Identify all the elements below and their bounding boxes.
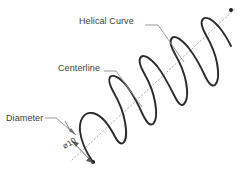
helical-curve-path	[80, 18, 231, 162]
helix-end-marker	[229, 8, 233, 12]
diameter-leader-arrowhead	[69, 128, 76, 135]
helical-curve-leader	[145, 25, 184, 62]
centerline-label: Centerline	[58, 63, 100, 73]
helical-curve-label: Helical Curve	[79, 16, 134, 26]
diameter-leader	[45, 118, 76, 135]
diameter-label: Diameter	[6, 113, 43, 123]
drawing-canvas: Helical Curve Centerline Diameter ø10	[0, 0, 244, 172]
